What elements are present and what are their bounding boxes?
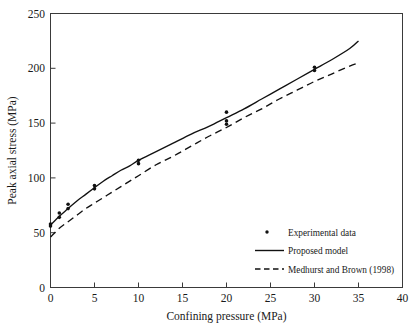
chart-background [0,0,413,330]
data-point [225,122,229,126]
data-point [58,216,62,220]
y-tick-label: 150 [28,117,46,129]
x-tick-label: 40 [397,292,409,304]
y-tick-label: 50 [34,227,46,239]
dot-marker-icon [265,230,268,233]
x-tick-label: 35 [353,292,365,304]
data-point [137,159,141,163]
data-point [93,187,97,191]
data-point [93,184,97,188]
x-tick-label: 5 [92,292,98,304]
x-tick-label: 20 [221,292,233,304]
x-axis-title: Confining pressure (MPa) [166,310,286,323]
y-axis-title: Peak axial stress (MPa) [6,96,19,204]
data-point [66,202,70,206]
legend-label: Proposed model [288,246,349,256]
y-tick-label: 100 [28,172,46,184]
data-point [313,65,317,69]
x-tick-label: 10 [133,292,145,304]
data-point [137,162,141,166]
data-point [225,110,229,114]
data-point [225,119,229,123]
x-tick-label: 15 [177,292,189,304]
legend-label: Experimental data [288,228,356,238]
data-point [49,222,53,226]
data-point [58,211,62,215]
data-point [66,207,70,211]
y-tick-label: 250 [28,8,46,20]
chart-figure: 0 50 100 150 200 250 Pe [0,0,413,330]
chart-canvas: 0 50 100 150 200 250 Pe [0,0,413,330]
y-tick-label: 0 [39,282,45,294]
x-tick-label: 0 [48,292,54,304]
data-point [313,69,317,73]
y-tick-label: 200 [28,62,46,74]
legend-label: Medhurst and Brown (1998) [288,265,394,276]
x-tick-label: 25 [265,292,277,304]
x-tick-label: 30 [309,292,321,304]
